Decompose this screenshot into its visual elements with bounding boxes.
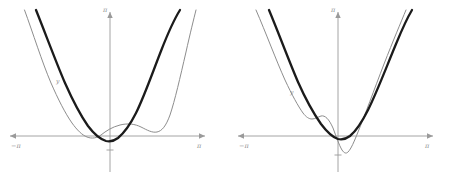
y-axis-top-label: π [102, 6, 108, 14]
x-axis-right-label: π [424, 142, 430, 150]
thick-function-curve [269, 10, 412, 139]
right-panel-svg: −π π π y [228, 0, 456, 182]
x-axis-arrowhead-right [427, 133, 433, 138]
x-axis-left-label: −π [11, 142, 21, 150]
y-axis-arrowhead-top [335, 12, 340, 18]
x-axis-arrowhead-left [238, 133, 244, 138]
left-panel: −π π π y [0, 0, 228, 182]
right-panel: −π π π y [228, 0, 456, 182]
x-axis-right-label: π [196, 142, 202, 150]
left-panel-svg: −π π π y [0, 0, 228, 182]
curve-annotation-label: y [55, 77, 60, 85]
y-axis-arrowhead-top [107, 12, 112, 18]
y-axis-top-label: π [330, 6, 336, 14]
curve-annotation-label: y [289, 88, 294, 96]
figure-container: −π π π y −π π π y [0, 0, 456, 182]
x-axis-arrowhead-right [199, 133, 205, 138]
thick-function-curve [36, 10, 180, 141]
x-axis-left-label: −π [239, 142, 249, 150]
x-axis-arrowhead-left [10, 133, 16, 138]
